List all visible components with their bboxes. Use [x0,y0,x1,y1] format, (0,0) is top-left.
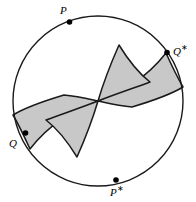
marker-q-star [164,50,170,56]
label-q-text: Q [9,137,17,149]
marker-p-star [113,177,119,183]
label-p-star-asterisk: ∗ [117,184,124,193]
label-p-star-text: P [110,186,117,198]
marker-q [23,130,29,136]
marker-p [67,19,73,25]
label-p-star: P∗ [110,185,124,198]
label-q-star-text: Q [173,45,181,57]
label-q-star-asterisk: ∗ [181,43,188,52]
shaded-regions [13,45,183,157]
label-p: P [60,3,67,16]
label-q-star: Q∗ [173,44,188,57]
label-q: Q [9,136,17,149]
label-p-text: P [60,4,67,16]
figure-container: P Q∗ Q P∗ [0,0,196,202]
circle-diagram-svg [0,0,196,202]
